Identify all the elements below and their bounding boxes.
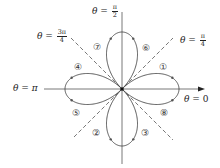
rose-diagram: θ = π2 θ = 3π4 θ = π4 θ = π θ = 0 ①②③④⑤⑥… xyxy=(0,0,220,168)
label-theta-pi-over-2: θ = π2 xyxy=(92,4,118,19)
direction-arrow-icon xyxy=(132,138,134,140)
origin-point xyxy=(120,87,124,91)
segment-label: ⑥ xyxy=(142,44,150,53)
direction-arrow-icon xyxy=(110,138,112,140)
label-theta-pi-over-4: θ = π4 xyxy=(180,33,206,48)
label-theta-pi: θ = π xyxy=(13,84,38,93)
segment-label: ③ xyxy=(141,129,149,138)
direction-arrow-icon xyxy=(171,99,173,101)
segment-label: ④ xyxy=(74,63,82,72)
direction-arrow-icon xyxy=(110,37,112,39)
label-theta-0: θ = 0 xyxy=(184,95,208,104)
segment-label: ⑧ xyxy=(160,109,168,118)
direction-arrow-icon xyxy=(70,77,72,79)
segment-label: ⑦ xyxy=(93,43,101,52)
segment-label: ② xyxy=(92,129,100,138)
axis-arrowhead-icon xyxy=(198,87,205,92)
direction-arrow-icon xyxy=(171,77,173,79)
direction-arrow-icon xyxy=(132,37,134,39)
label-theta-3pi-over-4: θ = 3π4 xyxy=(37,29,67,44)
direction-arrow-icon xyxy=(70,99,72,101)
segment-label: ① xyxy=(159,63,167,72)
segment-label: ⑤ xyxy=(72,109,80,118)
